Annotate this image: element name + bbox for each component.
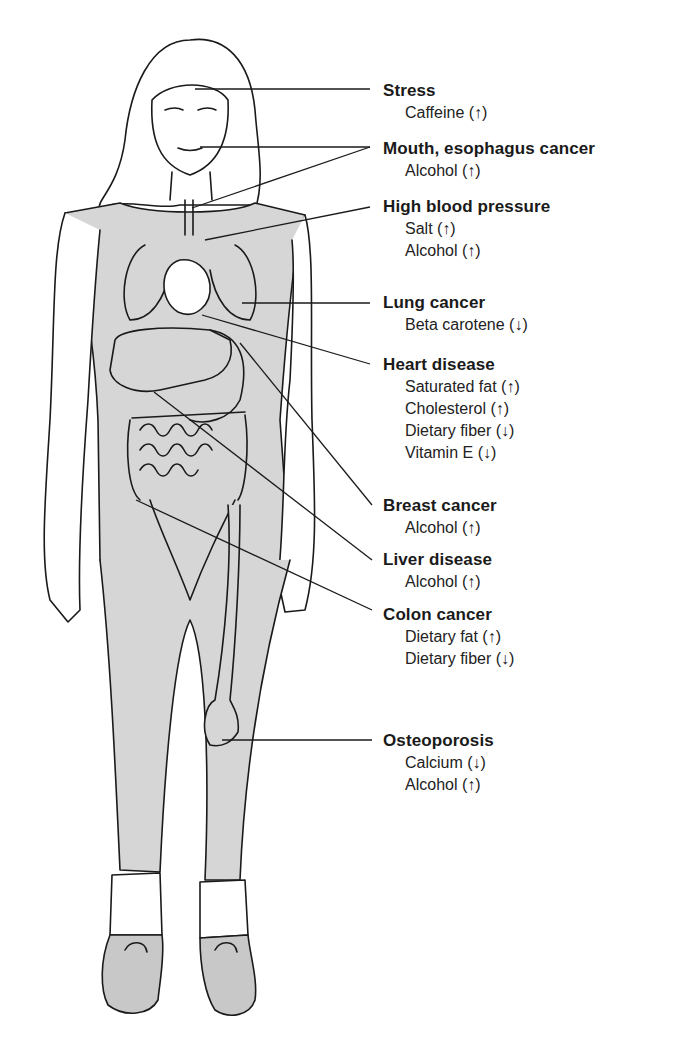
left-arm: [44, 213, 100, 622]
condition-breast-cancer: Breast cancer Alcohol (↑): [383, 495, 497, 539]
condition-high-blood-pressure: High blood pressure Salt (↑) Alcohol (↑): [383, 196, 550, 262]
condition-colon-cancer: Colon cancer Dietary fat (↑) Dietary fib…: [383, 604, 514, 670]
condition-stress: Stress Caffeine (↑): [383, 80, 487, 124]
condition-osteoporosis: Osteoporosis Calcium (↓) Alcohol (↑): [383, 730, 494, 796]
risk-factor: Alcohol (↑): [383, 571, 492, 593]
condition-name: Breast cancer: [383, 495, 497, 517]
heart: [164, 260, 210, 314]
risk-factor: Dietary fat (↑): [383, 626, 514, 648]
risk-factor: Caffeine (↑): [383, 102, 487, 124]
risk-factor: Salt (↑): [383, 218, 550, 240]
condition-name: High blood pressure: [383, 196, 550, 218]
condition-mouth-esophagus-cancer: Mouth, esophagus cancer Alcohol (↑): [383, 138, 595, 182]
condition-heart-disease: Heart disease Saturated fat (↑) Choleste…: [383, 354, 520, 464]
condition-name: Lung cancer: [383, 292, 528, 314]
risk-factor: Alcohol (↑): [383, 517, 497, 539]
legs: [100, 560, 290, 880]
risk-factor: Dietary fiber (↓): [383, 648, 514, 670]
risk-factor: Calcium (↓): [383, 752, 494, 774]
risk-factor: Cholesterol (↑): [383, 398, 520, 420]
risk-factor: Alcohol (↑): [383, 240, 550, 262]
condition-name: Colon cancer: [383, 604, 514, 626]
risk-factor: Vitamin E (↓): [383, 442, 520, 464]
risk-factor: Beta carotene (↓): [383, 314, 528, 336]
left-sock: [110, 873, 162, 935]
risk-factor: Saturated fat (↑): [383, 376, 520, 398]
condition-name: Heart disease: [383, 354, 520, 376]
risk-factor: Alcohol (↑): [383, 160, 595, 182]
condition-name: Liver disease: [383, 549, 492, 571]
condition-name: Osteoporosis: [383, 730, 494, 752]
condition-name: Stress: [383, 80, 487, 102]
risk-factor: Alcohol (↑): [383, 774, 494, 796]
left-shoe: [102, 935, 163, 1013]
risk-factor: Dietary fiber (↓): [383, 420, 520, 442]
condition-liver-disease: Liver disease Alcohol (↑): [383, 549, 492, 593]
right-shoe: [200, 935, 256, 1015]
condition-lung-cancer: Lung cancer Beta carotene (↓): [383, 292, 528, 336]
condition-name: Mouth, esophagus cancer: [383, 138, 595, 160]
right-sock: [200, 880, 248, 938]
